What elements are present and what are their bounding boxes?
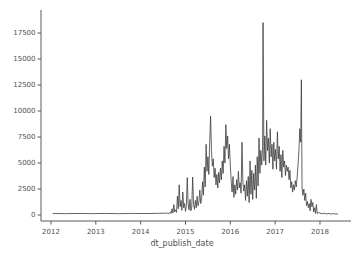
x-tick-label: 2015 [177, 228, 195, 236]
x-axis-ticks: 2012201320142015201620172018 [42, 221, 329, 236]
y-tick-label: 5000 [18, 159, 36, 167]
y-tick-label: 0 [31, 211, 35, 219]
x-tick-label: 2017 [266, 228, 284, 236]
x-tick-label: 2016 [221, 228, 239, 236]
y-tick-label: 7500 [18, 133, 36, 141]
y-tick-label: 17500 [13, 29, 35, 37]
series-line [53, 23, 338, 214]
y-axis-ticks: 025005000750010000125001500017500 [13, 29, 41, 219]
y-tick-label: 10000 [13, 107, 35, 115]
x-tick-label: 2012 [42, 228, 60, 236]
time-series-chart: 025005000750010000125001500017500 201220… [0, 0, 362, 257]
chart-figure: 025005000750010000125001500017500 201220… [0, 0, 362, 257]
x-axis-label: dt_publish_date [150, 239, 213, 248]
axes-spines [41, 10, 351, 221]
x-tick-label: 2014 [132, 228, 150, 236]
y-tick-label: 2500 [18, 185, 36, 193]
x-tick-label: 2018 [311, 228, 329, 236]
data-series [53, 23, 338, 214]
y-tick-label: 15000 [13, 55, 35, 63]
x-tick-label: 2013 [87, 228, 105, 236]
y-tick-label: 12500 [13, 81, 35, 89]
